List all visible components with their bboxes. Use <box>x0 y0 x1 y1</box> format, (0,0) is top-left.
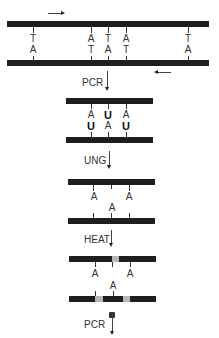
step1-arrow-icon <box>107 71 108 88</box>
stage1-bottom-base: A <box>183 45 193 55</box>
stage4-top-base: A <box>125 269 135 279</box>
stage1-bottom-base: T <box>121 45 131 55</box>
stage2-top-strand <box>66 98 153 104</box>
stage4-bottom-strand-mid <box>103 296 123 302</box>
stage1-top-base: T <box>28 34 38 44</box>
stage4-top-strand-right <box>119 256 156 262</box>
tick <box>130 262 131 267</box>
stage4-bottom-strand-gap <box>123 296 130 302</box>
stage1-bottom-base: A <box>28 45 38 55</box>
stage2-bottom-strand <box>66 137 153 143</box>
stage3-top-base: A <box>89 192 99 202</box>
stage1-top-base: A <box>86 34 96 44</box>
step3-label: HEAT <box>84 235 110 245</box>
stage3-top-base: A <box>124 192 134 202</box>
stage1-top-base: T <box>183 34 193 44</box>
step4-arrow-icon <box>112 314 113 332</box>
stage1-top-base: A <box>121 34 131 44</box>
tick <box>95 262 96 267</box>
stage1-bottom-strand <box>7 60 209 66</box>
tick <box>111 185 112 189</box>
stage2-top-base: A <box>121 110 131 120</box>
stage2-bottom-base: U <box>121 121 131 131</box>
step2-arrow-icon <box>109 151 110 166</box>
stage4-bottom-strand-gap <box>95 296 103 302</box>
step3-arrow-icon <box>111 230 112 244</box>
stage2-bottom-base: A <box>103 121 113 131</box>
stage3-bottom-strand <box>68 218 155 224</box>
stage3-bottom-base: A <box>107 203 117 213</box>
tick <box>112 262 113 267</box>
stage1-top-base: T <box>103 34 113 44</box>
forward-primer-arrow-icon <box>48 13 62 14</box>
stage4-bottom-base: A <box>108 281 118 291</box>
stage2-bottom-base: U <box>86 121 96 131</box>
stage4-bottom-strand-left <box>69 296 95 302</box>
step2-label: UNG <box>84 156 106 166</box>
stage1-bottom-base: A <box>103 45 113 55</box>
step1-label: PCR <box>82 78 103 88</box>
stage4-bottom-strand-right <box>130 296 156 302</box>
stage4-top-strand-left <box>69 256 112 262</box>
stage1-bottom-base: T <box>86 45 96 55</box>
stage4-top-strand-gap <box>112 256 119 262</box>
stage4-top-base: A <box>90 269 100 279</box>
reverse-primer-arrow-icon <box>157 72 171 73</box>
stage2-top-base: U <box>103 110 113 120</box>
step4-label: PCR <box>84 320 105 330</box>
stage2-top-base: A <box>86 110 96 120</box>
